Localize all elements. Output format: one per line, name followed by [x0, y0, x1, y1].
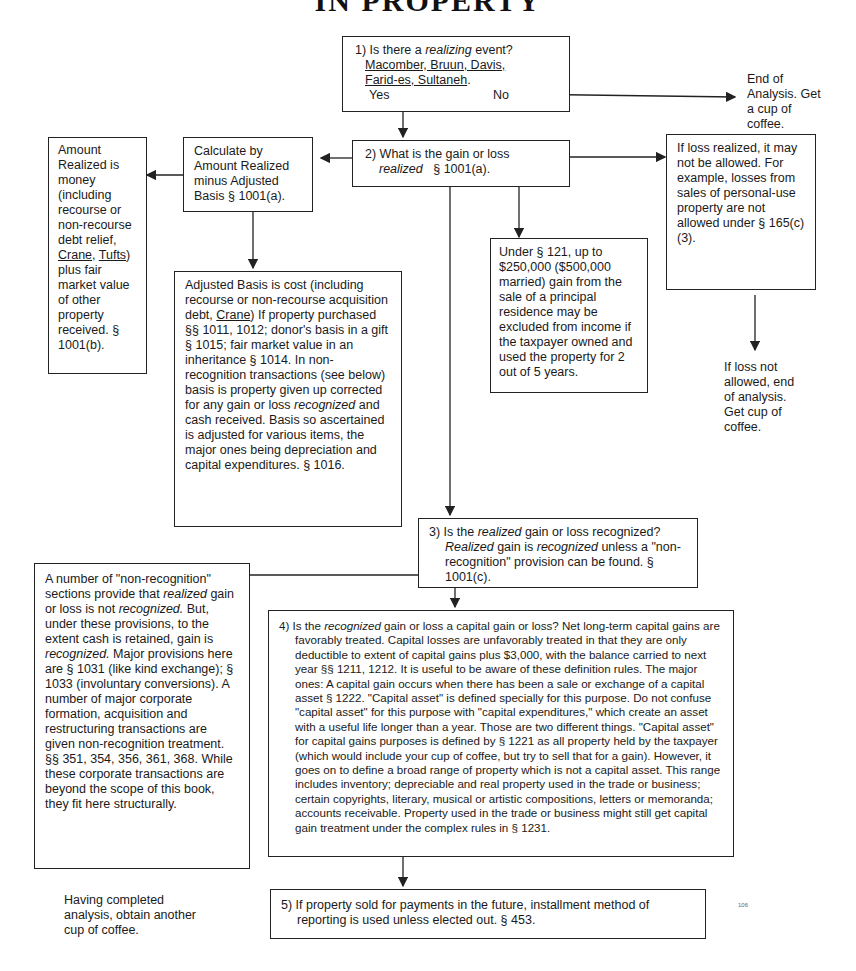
adjusted-basis-text-mid: ) If property purchased §§ 1011, 1012; d…	[185, 308, 388, 412]
q2-ref: § 1001(a).	[433, 162, 490, 176]
q5-text: 5) If property sold for payments in the …	[281, 898, 695, 928]
case-tufts: Tufts	[99, 248, 126, 262]
q3-emph-d: Realized	[445, 540, 494, 554]
q1-no-label: No	[493, 88, 509, 103]
case-crane: Crane	[58, 248, 92, 262]
node-end-of-analysis-3: Having completed analysis, obtain anothe…	[64, 893, 204, 938]
nonrec-text-g: Major provisions here are § 1031 (like k…	[45, 647, 233, 811]
case-crane: Crane	[216, 308, 250, 322]
node-loss-not-allowed: If loss realized, it may not be allowed.…	[666, 134, 816, 290]
node-q1-realizing-event: 1) Is there a realizing event? Macomber,…	[342, 36, 570, 112]
node-end-of-analysis-1: End of Analysis. Get a cup of coffee.	[747, 72, 827, 132]
q1-yes-label: Yes	[369, 88, 389, 103]
q1-text-end: event?	[475, 43, 513, 57]
nonrec-emph-b: realized	[163, 587, 207, 601]
node-q2-gain-loss-realized: 2) What is the gain or loss realized § 1…	[352, 140, 570, 187]
nonrec-emph-f: recognized.	[45, 647, 110, 661]
node-q3-recognized: 3) Is the realized gain or loss recogniz…	[418, 518, 698, 588]
q1-cases-line1: Macomber, Bruun, Davis,	[365, 58, 505, 72]
node-q4-capital-gain: 4) Is the recognized gain or loss a capi…	[268, 610, 734, 857]
end1-text: End of Analysis. Get a cup of coffee.	[747, 72, 821, 131]
adjusted-basis-emph: recognized	[294, 398, 355, 412]
loss-text: If loss realized, it may not be allowed.…	[677, 141, 804, 245]
amount-realized-text: Amount Realized is money (including reco…	[58, 143, 132, 247]
q2-text: 2) What is the gain or loss	[365, 147, 561, 162]
q1-cases-end: .	[467, 73, 470, 87]
q3-text-c: gain or loss recognized?	[525, 525, 661, 539]
node-non-recognition: A number of "non-recognition" sections p…	[34, 563, 250, 869]
node-q5-installment: 5) If property sold for payments in the …	[270, 889, 706, 939]
q3-text-e: gain is	[497, 540, 533, 554]
node-end-of-analysis-2: If loss not allowed, end of analysis. Ge…	[724, 360, 796, 435]
amount-realized-text-end: ) plus fair market value of other proper…	[58, 248, 130, 352]
q4-text-c: gain or loss a capital gain or loss? Net…	[295, 619, 720, 834]
node-adjusted-basis: Adjusted Basis is cost (including recour…	[174, 271, 402, 527]
sep: ,	[92, 248, 95, 262]
page-number: 106	[738, 902, 748, 908]
q1-text: 1) Is there a	[355, 43, 422, 57]
end2-text: If loss not allowed, end of analysis. Ge…	[724, 360, 794, 434]
q4-text-a: 4) Is the	[279, 619, 321, 632]
sec121-text: Under § 121, up to $250,000 ($500,000 ma…	[499, 245, 632, 379]
q2-emph: realized	[379, 162, 423, 176]
q3-text-a: 3) Is the	[429, 525, 474, 539]
q4-emph-b: recognized	[324, 619, 381, 632]
nonrec-emph-d: recognized.	[119, 602, 184, 616]
end3-text: Having completed analysis, obtain anothe…	[64, 893, 196, 937]
q3-emph-f: recognized	[537, 540, 598, 554]
q1-cases-line2: Farid-es, Sultaneh	[365, 73, 467, 87]
q3-emph-b: realized	[478, 525, 522, 539]
node-section-121-exclusion: Under § 121, up to $250,000 ($500,000 ma…	[490, 238, 648, 393]
node-amount-realized: Amount Realized is money (including reco…	[48, 137, 147, 374]
node-calculate-gain: Calculate by Amount Realized minus Adjus…	[183, 137, 313, 212]
calc-text: Calculate by Amount Realized minus Adjus…	[194, 144, 289, 203]
q1-emph: realizing	[425, 43, 472, 57]
